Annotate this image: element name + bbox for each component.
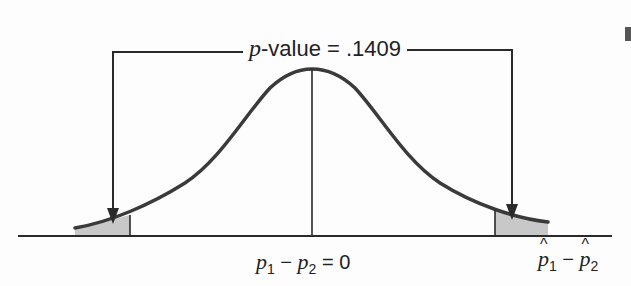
equals-zero: = 0 <box>316 251 350 273</box>
p1-hat-symbol: p <box>538 244 549 274</box>
p1-hat-subscript: 1 <box>549 258 557 274</box>
x-axis-label: p1 − p2 <box>538 244 598 281</box>
minus-sign: − <box>275 251 298 273</box>
p2-hat-symbol: p <box>580 244 591 274</box>
p2-hat-subscript: 2 <box>591 258 599 274</box>
center-axis-label: p1 − p2 = 0 <box>256 250 350 281</box>
p2-symbol: p <box>298 249 309 274</box>
p-value-text: -value = .1409 <box>261 36 401 61</box>
minus-sign: − <box>557 248 580 270</box>
p1-subscript: 1 <box>267 261 275 277</box>
normal-distribution-figure: p-value = .1409 p1 − p2 = 0 p1 − p2 <box>0 0 631 286</box>
p1-symbol: p <box>256 249 267 274</box>
p-italic: p <box>249 35 261 61</box>
cropped-edge-mark <box>625 27 631 41</box>
p-value-annotation: p-value = .1409 <box>243 35 407 62</box>
left-bracket-arrow <box>113 52 250 214</box>
right-bracket-arrow <box>396 50 512 208</box>
